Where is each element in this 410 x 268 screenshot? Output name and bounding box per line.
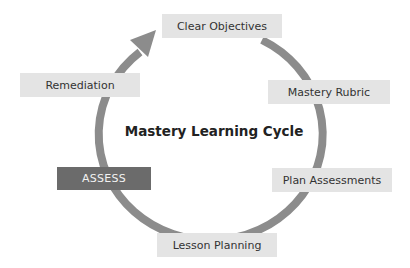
node-lesson-planning: Lesson Planning <box>157 233 277 257</box>
node-plan-assessments: Plan Assessments <box>272 168 392 192</box>
node-label: Mastery Rubric <box>288 86 370 99</box>
node-remediation: Remediation <box>20 73 140 97</box>
node-label: Plan Assessments <box>283 174 382 187</box>
node-clear-objectives: Clear Objectives <box>162 14 282 38</box>
node-assess: ASSESS <box>57 167 151 190</box>
cycle-arc <box>99 40 323 240</box>
node-mastery-rubric: Mastery Rubric <box>268 80 390 104</box>
node-label: Clear Objectives <box>177 20 267 33</box>
node-label: Remediation <box>45 79 114 92</box>
node-label: ASSESS <box>82 172 126 185</box>
diagram-title: Mastery Learning Cycle <box>0 123 410 139</box>
node-label: Lesson Planning <box>173 239 262 252</box>
